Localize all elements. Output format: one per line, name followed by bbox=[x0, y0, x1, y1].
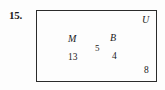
region-count-outside: 8 bbox=[144, 66, 149, 76]
set-label-m: M bbox=[68, 34, 76, 44]
region-count-m-only: 13 bbox=[68, 53, 78, 63]
region-count-intersection: 5 bbox=[95, 44, 100, 53]
venn-diagram-figure: 15. M 13 B 4 5 U 8 bbox=[0, 0, 165, 90]
region-count-b-only: 4 bbox=[112, 52, 117, 62]
problem-number-label: 15. bbox=[9, 9, 22, 21]
universal-set-label: U bbox=[142, 15, 149, 25]
set-label-b: B bbox=[110, 33, 116, 43]
